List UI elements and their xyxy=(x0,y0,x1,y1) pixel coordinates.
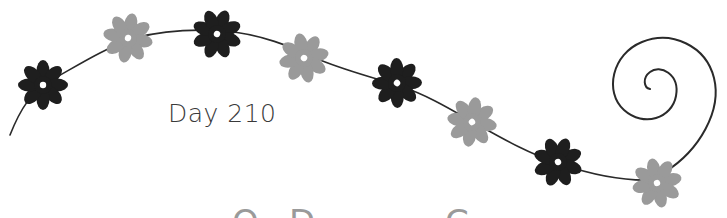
cutoff-glyph: D xyxy=(289,205,315,218)
dark-flower-icon xyxy=(362,48,433,119)
cutoff-glyph: O xyxy=(232,205,259,218)
flower-group xyxy=(18,1,687,213)
gray-flower-icon xyxy=(99,9,158,68)
cutoff-glyph: C xyxy=(445,205,469,218)
dark-flower-icon xyxy=(184,1,249,66)
gray-flower-icon xyxy=(437,87,507,157)
dark-flower-icon xyxy=(18,60,68,110)
gray-flower-icon xyxy=(269,23,338,92)
day-label: Day 210 xyxy=(168,99,277,128)
dark-flower-icon xyxy=(525,129,591,195)
spiral-tail xyxy=(613,38,716,172)
vine-illustration xyxy=(0,0,727,218)
